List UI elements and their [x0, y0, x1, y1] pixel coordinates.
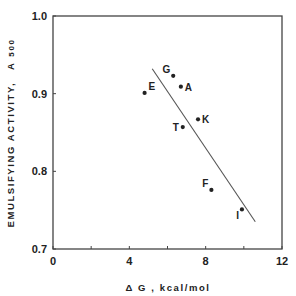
y-axis-title-subscript: 500 [7, 38, 16, 56]
data-point-k: K [196, 114, 210, 125]
scatter-chart: 04812 0.70.80.91.0 EGAKTFI Δ G , kcal/mo… [0, 0, 296, 296]
data-point-t: T [173, 122, 185, 133]
point-marker [143, 91, 147, 95]
data-point-a: A [179, 82, 192, 93]
svg-text:EMULSIFYING ACTIVITY, A: EMULSIFYING ACTIVITY, A 500 [5, 38, 16, 227]
point-marker [196, 117, 200, 121]
point-label: T [173, 122, 179, 133]
point-label: G [162, 64, 170, 75]
data-points: EGAKTFI [143, 64, 245, 222]
y-tick-label: 0.7 [32, 243, 47, 255]
y-tick-label: 0.8 [32, 165, 47, 177]
y-axis-title: EMULSIFYING ACTIVITY, A 500 [5, 38, 16, 227]
data-point-f: F [202, 178, 213, 192]
point-label: I [236, 210, 239, 221]
point-marker [240, 207, 244, 211]
x-axis-title: Δ G , kcal/mol [125, 282, 210, 293]
point-label: A [185, 82, 192, 93]
data-point-e: E [143, 81, 156, 95]
regression-line [152, 69, 255, 222]
point-label: F [202, 178, 208, 189]
data-point-g: G [162, 64, 175, 78]
point-marker [209, 188, 213, 192]
point-marker [179, 85, 183, 89]
y-tick-label: 0.9 [32, 88, 47, 100]
point-label: K [202, 114, 210, 125]
x-tick-label: 12 [276, 255, 288, 267]
point-marker [181, 125, 185, 129]
point-marker [171, 74, 175, 78]
y-tick-label: 1.0 [32, 10, 47, 22]
plot-area [53, 16, 282, 249]
y-axis-title-symbol: A [5, 62, 16, 70]
data-point-i: I [236, 207, 244, 221]
point-label: E [149, 81, 156, 92]
y-axis-title-main: EMULSIFYING ACTIVITY, [5, 82, 16, 228]
x-tick-label: 8 [203, 255, 209, 267]
x-tick-label: 0 [50, 255, 56, 267]
x-tick-label: 4 [126, 255, 133, 267]
